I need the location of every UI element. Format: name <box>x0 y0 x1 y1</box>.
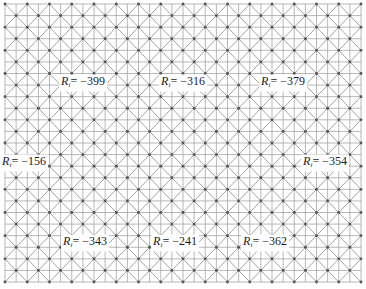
lattice-diagram: Ri= −399Ri= −316Ri= −379Ri= −156Ri= −354… <box>0 0 366 289</box>
value-label-r-mid-right: Ri= −354 <box>301 155 349 172</box>
label-value: = −354 <box>312 154 347 168</box>
label-value: = −362 <box>252 234 287 248</box>
value-label-r-top-right: Ri= −379 <box>259 75 307 92</box>
value-label-r-bottom-left: Ri= −343 <box>61 235 109 252</box>
value-label-r-bottom-right: Ri= −362 <box>241 235 289 252</box>
label-value: = −156 <box>11 154 46 168</box>
label-value: = −316 <box>170 74 205 88</box>
value-label-r-top-center: Ri= −316 <box>159 75 207 92</box>
value-label-r-mid-left: Ri= −156 <box>0 155 48 172</box>
value-label-r-top-left: Ri= −399 <box>59 75 107 92</box>
label-value: = −399 <box>70 74 105 88</box>
label-value: = −379 <box>270 74 305 88</box>
label-value: = −343 <box>72 234 107 248</box>
value-label-r-bottom-center: Ri= −241 <box>151 235 199 252</box>
label-value: = −241 <box>162 234 197 248</box>
